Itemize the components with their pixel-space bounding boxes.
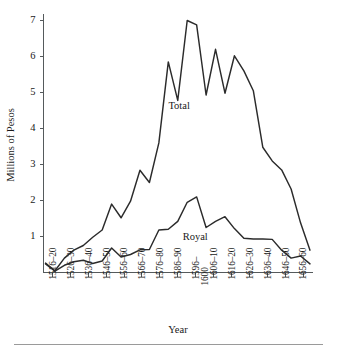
y-axis-title: Millions of Pesos xyxy=(5,108,16,182)
x-axis-tick-label: 1656–60 xyxy=(298,247,308,279)
x-axis-tick-label: 1616–20 xyxy=(227,247,237,279)
y-axis-tick-label: 3 xyxy=(30,158,35,169)
y-axis-tick-label: 5 xyxy=(30,86,35,97)
y-axis-tick-label: 4 xyxy=(30,122,36,133)
x-axis-tick-label: 1566–70 xyxy=(137,247,147,279)
y-axis-tick-label: 2 xyxy=(30,194,35,205)
x-axis-title: Year xyxy=(168,324,188,335)
spanish-treasure-imports-line-chart: 1234567 1516–201526–301536–401546–501556… xyxy=(0,0,337,348)
x-axis-tick-label: 1516–20 xyxy=(48,247,58,279)
y-axis-tick-group: 1234567 xyxy=(30,14,43,241)
chart-axes xyxy=(44,14,314,273)
chart-figure: 1234567 1516–201526–301536–401546–501556… xyxy=(0,0,337,348)
y-axis-tick-label: 7 xyxy=(30,14,35,25)
series-label-royal: Royal xyxy=(183,231,208,242)
data-series-group xyxy=(46,21,311,272)
x-axis-tick-label: 1626–30 xyxy=(245,247,255,279)
y-axis-tick-label: 1 xyxy=(30,230,35,241)
x-axis-tick-group: 1516–201526–301536–401546–501556–601566–… xyxy=(48,247,309,285)
x-axis-tick-label: 1636–40 xyxy=(263,247,273,279)
x-axis-tick-label: 1586–90 xyxy=(173,247,183,279)
x-axis-tick-label: 1576–80 xyxy=(155,247,165,279)
x-axis-tick-label: 1606–10 xyxy=(209,247,219,279)
series-label-total: Total xyxy=(168,100,190,111)
series-annotation-group: TotalRoyal xyxy=(168,100,207,241)
series-line-total xyxy=(46,21,311,271)
x-axis-tick-label: 1546–50 xyxy=(102,247,112,279)
y-axis-tick-label: 6 xyxy=(30,50,35,61)
x-axis-tick-label: 1646–50 xyxy=(281,247,291,279)
x-axis-tick-label: 1556–60 xyxy=(119,247,129,279)
